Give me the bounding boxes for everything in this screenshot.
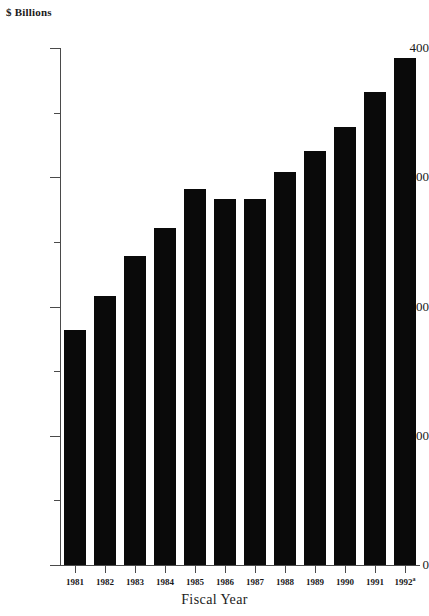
bar (184, 189, 206, 565)
x-tick (195, 566, 196, 573)
x-tick (405, 566, 406, 573)
x-tick (255, 566, 256, 573)
y-tick-major (50, 436, 61, 437)
x-tick (375, 566, 376, 573)
y-tick-label: 400 (383, 40, 429, 56)
bar (154, 228, 176, 565)
y-tick-major (50, 307, 61, 308)
x-tick (105, 566, 106, 573)
bar (64, 330, 86, 565)
y-tick-major (50, 48, 61, 49)
bar (334, 127, 356, 565)
y-tick-minor (54, 113, 61, 114)
x-tick (285, 566, 286, 573)
x-axis-title: Fiscal Year (0, 592, 429, 608)
x-tick (135, 566, 136, 573)
y-tick-minor (54, 371, 61, 372)
y-axis-unit-label: $ Billions (6, 6, 52, 18)
bar (244, 199, 266, 565)
x-tick (345, 566, 346, 573)
bar (304, 151, 326, 565)
bar-chart: $ Billions 0100200300400 198119821983198… (0, 0, 429, 616)
bar (274, 172, 296, 565)
y-tick-major (50, 565, 61, 566)
bar (214, 199, 236, 565)
bar (94, 296, 116, 565)
y-tick-major (50, 177, 61, 178)
bar (394, 58, 416, 565)
y-tick-minor (54, 500, 61, 501)
x-tick (315, 566, 316, 573)
bar (124, 256, 146, 565)
y-tick-minor (54, 242, 61, 243)
x-tick-label: 1992a (385, 577, 425, 587)
x-tick (75, 566, 76, 573)
x-tick (225, 566, 226, 573)
x-axis-line (60, 565, 420, 566)
x-tick (165, 566, 166, 573)
x-tick-label-superscript: a (413, 576, 416, 582)
bar (364, 92, 386, 565)
